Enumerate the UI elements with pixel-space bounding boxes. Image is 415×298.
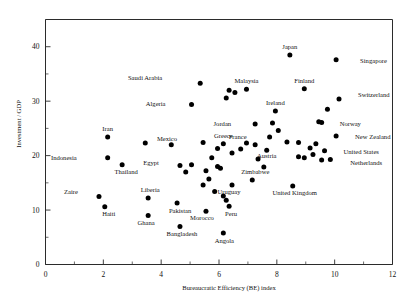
- plot-frame: [46, 20, 393, 265]
- x-tick-label: 8: [275, 270, 279, 279]
- data-point: [319, 157, 324, 162]
- data-point: [224, 95, 229, 100]
- x-axis-tick-labels: 024681012: [44, 270, 397, 279]
- data-point: [203, 168, 208, 173]
- data-point-label: Uruguay: [217, 188, 241, 195]
- data-point-label: Japan: [282, 43, 298, 50]
- data-point: [198, 81, 203, 86]
- data-point-label: Egypt: [143, 159, 159, 166]
- data-point-label: Algeria: [146, 100, 166, 107]
- data-point-label: United States: [344, 148, 380, 155]
- data-point: [189, 162, 194, 167]
- axis-spine-left-bottom: [46, 20, 393, 265]
- data-point: [201, 140, 206, 145]
- data-point: [337, 96, 342, 101]
- axis-spine-top-right: [46, 20, 393, 265]
- data-point: [313, 141, 318, 146]
- data-point: [120, 162, 125, 167]
- data-point: [221, 230, 226, 235]
- data-point-label: Singapore: [360, 57, 387, 64]
- data-point: [102, 204, 107, 209]
- data-point-label: Zimbabwe: [241, 168, 269, 175]
- data-point: [267, 135, 272, 140]
- data-point: [146, 196, 151, 201]
- data-point: [96, 194, 101, 199]
- data-point-label: Indonesia: [51, 154, 77, 161]
- data-point-label: Liberia: [141, 186, 160, 193]
- scatter-plot-figure: 024681012 010203040 SingaporeJapanSaudi …: [0, 0, 415, 298]
- data-point-label: Bangladesh: [167, 230, 198, 237]
- data-point: [212, 189, 217, 194]
- data-point: [325, 107, 330, 112]
- data-point: [253, 142, 258, 147]
- data-point-label: Morocco: [190, 214, 215, 221]
- data-point-label: United Kingdom: [272, 189, 317, 196]
- y-tick-label: 0: [36, 260, 40, 269]
- y-tick-label: 30: [32, 97, 40, 106]
- data-point: [206, 177, 211, 182]
- data-point: [270, 120, 275, 125]
- data-point-label: New Zealand: [355, 133, 391, 140]
- data-point: [308, 145, 313, 150]
- data-point: [244, 141, 249, 146]
- data-point: [284, 140, 289, 145]
- y-tick-label: 40: [32, 42, 40, 51]
- data-point-label: Austria: [257, 152, 276, 159]
- y-tick-label: 10: [32, 206, 40, 215]
- y-tick-label: 20: [32, 151, 40, 160]
- data-point: [224, 198, 229, 203]
- data-point: [169, 142, 174, 147]
- data-point-label: Jordan: [214, 120, 232, 127]
- data-point-label: Saudi Arabia: [128, 74, 162, 81]
- data-point-label: Thailand: [114, 168, 138, 175]
- y-axis-ticks: [46, 20, 51, 265]
- data-point: [334, 57, 339, 62]
- x-tick-label: 6: [217, 270, 221, 279]
- data-point: [302, 86, 307, 91]
- x-axis-ticks: [46, 260, 393, 265]
- data-point: [203, 209, 208, 214]
- data-point: [316, 119, 321, 124]
- data-point: [201, 183, 206, 188]
- x-tick-label: 4: [159, 270, 163, 279]
- data-point: [146, 213, 151, 218]
- data-point-label: Greece: [214, 132, 233, 139]
- data-point: [250, 178, 255, 183]
- data-point: [230, 183, 235, 188]
- x-tick-label: 2: [101, 270, 105, 279]
- data-point: [189, 102, 194, 107]
- data-point: [177, 163, 182, 168]
- scatter-plot-svg: 024681012 010203040 SingaporeJapanSaudi …: [0, 0, 415, 298]
- data-point: [183, 169, 188, 174]
- data-point: [287, 52, 292, 57]
- data-point: [253, 122, 258, 127]
- data-point-label: Peru: [225, 210, 238, 217]
- data-point: [218, 166, 223, 171]
- data-point: [322, 148, 327, 153]
- axis-titles: Bureaucratic Efficiency (BE) indexInvest…: [15, 100, 276, 292]
- data-point: [296, 140, 301, 145]
- data-point-label: Zaire: [64, 188, 78, 195]
- x-tick-label: 10: [331, 270, 339, 279]
- data-point-label: Malaysia: [234, 77, 258, 84]
- data-point: [215, 146, 220, 151]
- data-point: [221, 141, 226, 146]
- data-point: [276, 128, 281, 133]
- data-point-label: Netherlands: [350, 159, 382, 166]
- data-point-label: Norway: [340, 120, 362, 127]
- data-point: [177, 224, 182, 229]
- data-point-label: Pakistan: [169, 207, 192, 214]
- data-point: [209, 155, 214, 160]
- x-tick-label: 0: [44, 270, 48, 279]
- data-point: [105, 155, 110, 160]
- data-point-label: Angola: [215, 237, 234, 244]
- data-point: [302, 155, 307, 160]
- data-point: [238, 147, 243, 152]
- data-point: [273, 108, 278, 113]
- data-point: [230, 150, 235, 155]
- data-point-label: Iran: [102, 125, 113, 132]
- data-point: [105, 135, 110, 140]
- data-point: [227, 204, 232, 209]
- data-point-label: Finland: [294, 77, 315, 84]
- data-point: [290, 184, 295, 189]
